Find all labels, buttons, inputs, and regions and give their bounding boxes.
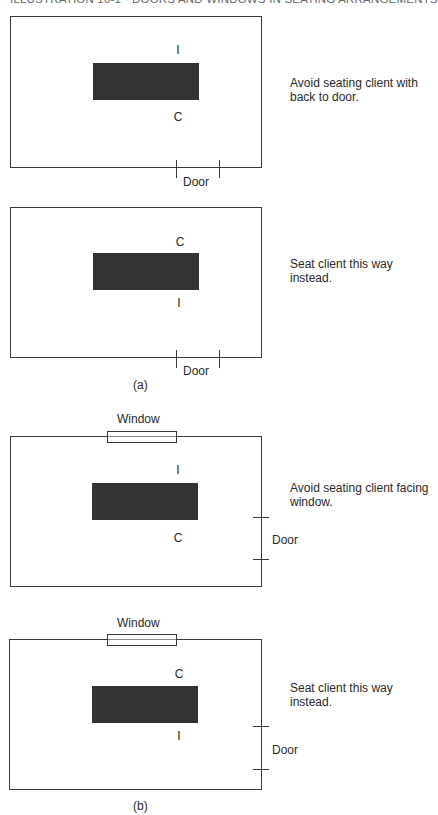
- seat-label-top: I: [172, 464, 184, 476]
- seat-label-bottom: I: [173, 730, 185, 742]
- table: [92, 483, 198, 520]
- door-marker-bottom: [253, 559, 269, 560]
- seat-label-bottom: C: [172, 111, 184, 123]
- table: [92, 686, 198, 723]
- door-label: Door: [272, 534, 298, 547]
- caption-line: Avoid seating client facing: [290, 481, 430, 495]
- caption-line: Seat client this way: [290, 681, 430, 695]
- caption: Avoid seating client with back to door.: [290, 76, 430, 104]
- subfigure-label-b: (b): [133, 800, 148, 813]
- door-label: Door: [183, 176, 209, 189]
- caption-line: window.: [290, 495, 430, 509]
- door-marker-bottom: [253, 769, 269, 770]
- window-label: Window: [117, 413, 160, 426]
- caption: Seat client this way instead.: [290, 681, 430, 709]
- window-label: Window: [117, 617, 160, 630]
- door-label: Door: [272, 744, 298, 757]
- door-label: Door: [183, 365, 209, 378]
- caption-line: instead.: [290, 695, 430, 709]
- caption-line: Seat client this way: [290, 257, 430, 271]
- seat-label-bottom: C: [172, 532, 184, 544]
- caption: Seat client this way instead.: [290, 257, 430, 285]
- caption: Avoid seating client facing window.: [290, 481, 430, 509]
- door-marker-right: [219, 160, 220, 178]
- seat-label-top: C: [173, 668, 185, 680]
- table: [93, 253, 199, 290]
- seat-label-bottom: I: [173, 297, 185, 309]
- subfigure-label-a: (a): [133, 379, 148, 392]
- door-marker-right: [219, 350, 220, 368]
- door-marker-top: [253, 726, 269, 727]
- door-marker-left: [176, 160, 177, 178]
- door-marker-left: [176, 350, 177, 368]
- window-marker: [107, 431, 177, 443]
- figure-header: ILLUSTRATION 10-1 · DOORS AND WINDOWS IN…: [10, 0, 430, 5]
- window-marker: [107, 634, 177, 646]
- door-marker-top: [253, 517, 269, 518]
- seat-label-top: C: [174, 236, 186, 248]
- caption-line: Avoid seating client with: [290, 76, 430, 90]
- table: [93, 63, 199, 100]
- caption-line: back to door.: [290, 90, 430, 104]
- caption-line: instead.: [290, 271, 430, 285]
- seat-label-top: I: [172, 44, 184, 56]
